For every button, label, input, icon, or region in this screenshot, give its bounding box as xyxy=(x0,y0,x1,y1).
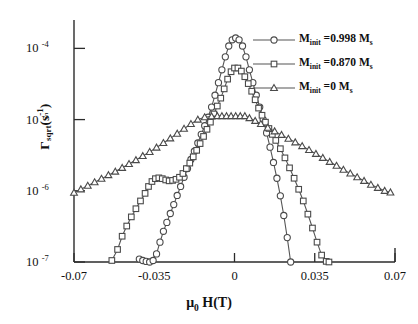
data-point xyxy=(119,233,125,239)
data-point xyxy=(312,150,319,156)
data-point xyxy=(242,74,248,80)
legend-label-value: =0 M xyxy=(321,80,350,92)
x-axis-label: μ0 H(T) xyxy=(0,295,418,313)
legend-label-value: =0.870 M xyxy=(321,56,370,68)
legend-label-value: =0.998 M xyxy=(321,32,370,44)
legend-label-value-subscript: s xyxy=(370,63,373,72)
data-point xyxy=(174,130,181,136)
legend-label-value-subscript: s xyxy=(350,87,353,96)
legend-label-prefix: M xyxy=(299,56,310,68)
data-point xyxy=(197,141,203,147)
data-point xyxy=(278,131,285,137)
legend-sample-2 xyxy=(252,81,296,95)
x-tick-label-4: 0.07 xyxy=(360,269,418,284)
legend-sample-1 xyxy=(252,57,296,71)
data-point xyxy=(181,125,188,131)
data-point xyxy=(150,257,156,263)
legend-label-0: Minit =0.998 Ms xyxy=(299,32,373,47)
data-point xyxy=(98,175,105,181)
legend-label-prefix: M xyxy=(299,32,310,44)
y-axis-label-unit-exp: -1 xyxy=(35,108,45,116)
data-point xyxy=(184,166,190,172)
data-point xyxy=(285,135,292,141)
data-point xyxy=(274,175,280,181)
data-point xyxy=(219,67,225,73)
data-point xyxy=(300,198,306,204)
data-point xyxy=(119,164,126,170)
data-point xyxy=(109,258,115,264)
data-point xyxy=(174,192,180,198)
y-tick-label-3: 10 -7 xyxy=(26,253,49,270)
data-point xyxy=(164,219,170,225)
legend-label-subscript: init xyxy=(310,63,321,72)
y-axis-label-gamma: Γ xyxy=(37,141,52,150)
data-point xyxy=(271,128,278,134)
figure-container: 10 -410 -510 -610 -7 -0.07-0.03500.0350.… xyxy=(0,0,418,324)
data-point xyxy=(236,37,242,43)
y-axis-label-unit-close: ) xyxy=(37,104,52,109)
data-point xyxy=(291,175,297,181)
data-point xyxy=(326,158,333,164)
data-point xyxy=(138,198,144,204)
data-point xyxy=(160,228,166,234)
y-tick-base: 10 xyxy=(26,42,39,56)
x-axis-label-mu: μ xyxy=(186,295,194,310)
data-point xyxy=(292,139,299,145)
data-point xyxy=(326,259,332,265)
data-point xyxy=(299,143,306,149)
data-point xyxy=(287,165,293,171)
data-point xyxy=(178,183,184,189)
data-point xyxy=(212,92,218,98)
x-tick-label-1: -0.035 xyxy=(119,269,189,284)
data-point xyxy=(243,54,249,60)
data-point xyxy=(278,146,284,152)
legend-item-1: Minit =0.870 Ms xyxy=(252,52,404,76)
data-point xyxy=(259,112,265,118)
data-point xyxy=(157,239,163,245)
data-point xyxy=(221,86,227,92)
data-point xyxy=(218,95,224,101)
data-point xyxy=(314,239,320,245)
data-point xyxy=(194,148,200,154)
data-point xyxy=(146,148,153,154)
data-point xyxy=(133,157,140,163)
data-point xyxy=(142,191,148,197)
data-point xyxy=(222,54,228,60)
data-point xyxy=(77,186,84,192)
data-point xyxy=(171,201,177,207)
data-point xyxy=(126,161,133,167)
data-point xyxy=(354,174,361,180)
data-point xyxy=(226,43,232,49)
data-point xyxy=(273,138,279,144)
data-point xyxy=(91,179,98,185)
data-point xyxy=(215,103,221,109)
data-point xyxy=(368,181,375,187)
data-point xyxy=(167,210,173,216)
x-tick-label-3: 0.035 xyxy=(280,269,350,284)
legend-label-subscript: init xyxy=(310,87,321,96)
data-point xyxy=(215,80,221,86)
data-point xyxy=(319,154,326,160)
x-tick-label-0: -0.07 xyxy=(39,269,109,284)
legend-item-0: Minit =0.998 Ms xyxy=(252,28,404,52)
y-axis-label-sub: sqrt xyxy=(43,126,53,142)
data-point xyxy=(204,127,210,133)
data-point xyxy=(167,135,174,141)
legend-item-2: Minit =0 Ms xyxy=(252,76,404,100)
legend-label-prefix: M xyxy=(299,80,310,92)
data-point xyxy=(310,225,316,231)
data-point xyxy=(225,76,231,82)
legend-label-subscript: init xyxy=(310,39,321,48)
legend-label-value-subscript: s xyxy=(370,39,373,48)
y-tick-base: 10 xyxy=(26,255,39,269)
y-axis-label: Γsqrt(s-1) xyxy=(35,67,53,187)
legend-label-1: Minit =0.870 Ms xyxy=(299,56,373,71)
square-marker xyxy=(271,61,277,67)
data-point xyxy=(187,160,193,166)
data-point xyxy=(319,252,325,258)
data-point xyxy=(347,170,354,176)
data-point xyxy=(288,259,294,265)
data-point xyxy=(129,214,135,220)
data-point xyxy=(284,235,290,241)
data-point xyxy=(124,223,130,229)
